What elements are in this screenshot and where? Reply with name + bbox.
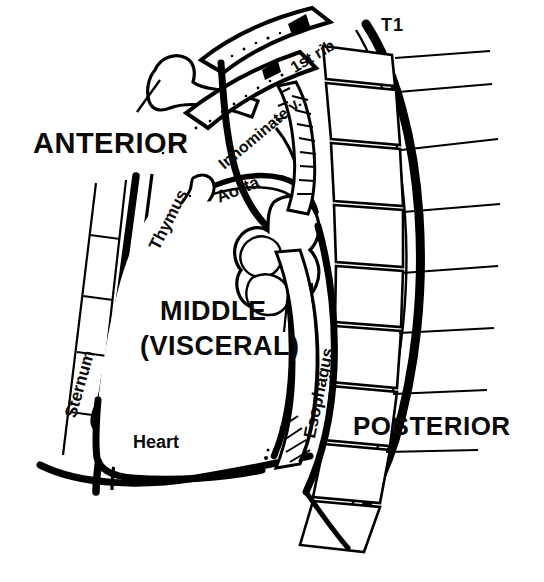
label-visceral-compartment: (VISCERAL) xyxy=(140,333,300,360)
vertebral-body-t8 xyxy=(313,444,390,503)
vertebral-body-t2 xyxy=(326,83,400,145)
vertebral-body-t3 xyxy=(331,143,403,206)
anatomical-figure: ANTERIOR MIDDLE (VISCERAL) POSTERIOR Ste… xyxy=(0,0,544,582)
label-anterior-compartment: ANTERIOR xyxy=(33,129,188,158)
vertebral-body-t6 xyxy=(331,326,401,388)
label-posterior-compartment: POSTERIOR xyxy=(353,413,511,439)
label-t1-vertebra: T1 xyxy=(381,16,404,34)
label-middle-compartment: MIDDLE xyxy=(160,298,267,325)
hilar-node-upper xyxy=(240,236,281,277)
label-heart: Heart xyxy=(133,433,179,451)
vertebral-body-t9 xyxy=(300,501,380,552)
vertebral-body-t4 xyxy=(334,205,403,267)
chest-lateral-linedrawing xyxy=(0,0,544,582)
vertebral-body-t5 xyxy=(335,266,403,327)
